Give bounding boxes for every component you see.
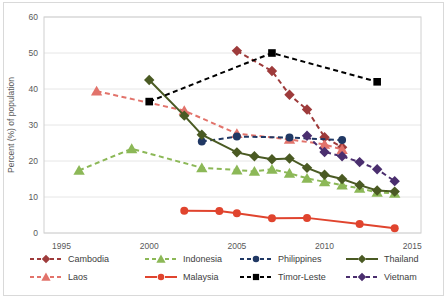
legend-item[interactable]: Indonesia <box>145 254 222 264</box>
data-point-marker <box>356 220 364 228</box>
y-axis-tick-label: 20 <box>29 156 39 166</box>
data-point-marker <box>303 214 311 222</box>
data-point-marker <box>232 46 242 56</box>
data-point-marker <box>319 169 329 179</box>
data-point-marker <box>233 133 241 141</box>
legend-label: Thailand <box>384 254 419 264</box>
chart-figure: 010203040506019952000200520102015Percent… <box>0 0 448 300</box>
data-point-marker <box>373 78 381 86</box>
data-point-marker <box>268 49 276 57</box>
legend-label: Timor-Leste <box>278 272 326 282</box>
data-point-marker <box>285 134 293 142</box>
data-point-marker <box>249 151 259 161</box>
y-axis-tick-label: 40 <box>29 84 39 94</box>
data-point-marker <box>284 153 294 163</box>
legend-marker-icon <box>41 273 50 281</box>
legend-label: Philippines <box>278 254 322 264</box>
x-axis-tick-label: 2005 <box>227 241 246 251</box>
legend-marker-icon <box>253 274 259 280</box>
data-point-marker <box>145 98 153 106</box>
legend-item[interactable]: Timor-Leste <box>240 272 326 282</box>
x-axis-tick-label: 2010 <box>315 241 334 251</box>
line-chart-plot: 010203040506019952000200520102015Percent… <box>0 0 448 300</box>
legend-marker-icon <box>358 255 367 264</box>
legend-item[interactable]: Thailand <box>346 254 419 264</box>
legend-item[interactable]: Philippines <box>240 254 322 264</box>
data-point-marker <box>196 162 207 172</box>
series-timor-leste <box>145 49 381 105</box>
legend-label: Cambodia <box>68 254 109 264</box>
data-point-marker <box>126 143 137 153</box>
legend-marker-icon <box>156 255 165 263</box>
data-point-marker <box>302 163 312 173</box>
y-axis-tick-label: 10 <box>29 192 39 202</box>
data-point-marker <box>249 166 260 176</box>
legend-label: Indonesia <box>183 254 222 264</box>
data-point-marker <box>372 164 382 174</box>
x-axis-tick-label: 1995 <box>52 241 71 251</box>
data-point-marker <box>337 174 347 184</box>
legend-item[interactable]: Malaysia <box>145 272 219 282</box>
data-point-marker <box>284 90 294 100</box>
data-point-marker <box>267 154 277 164</box>
y-axis-tick-label: 30 <box>29 120 39 130</box>
legend-label: Vietnam <box>384 272 417 282</box>
legend-item[interactable]: Vietnam <box>346 272 417 282</box>
data-point-marker <box>180 207 188 215</box>
data-point-marker <box>91 86 102 96</box>
data-point-marker <box>73 165 84 175</box>
y-axis-tick-label: 0 <box>33 228 38 238</box>
x-axis-tick-label: 2015 <box>403 241 422 251</box>
data-point-marker <box>215 207 223 215</box>
y-axis-title: Percent (%) of population <box>6 77 16 173</box>
series-line <box>149 53 377 102</box>
series-line <box>97 91 342 149</box>
legend-marker-icon <box>253 256 260 263</box>
legend-label: Malaysia <box>183 272 219 282</box>
x-axis-tick-label: 2000 <box>140 241 159 251</box>
data-point-marker <box>354 157 364 167</box>
legend-marker-icon <box>358 273 367 282</box>
legend-marker-icon <box>42 255 51 264</box>
series-line <box>149 80 394 192</box>
legend-item[interactable]: Laos <box>30 272 88 282</box>
data-point-marker <box>231 165 242 175</box>
data-point-marker <box>233 209 241 217</box>
y-axis-tick-label: 60 <box>29 12 39 22</box>
data-point-marker <box>302 131 312 141</box>
chart-legend: CambodiaIndonesiaLaosMalaysiaPhilippines… <box>30 254 419 282</box>
y-axis-tick-label: 50 <box>29 48 39 58</box>
series-malaysia <box>180 207 398 233</box>
legend-label: Laos <box>68 272 88 282</box>
data-point-marker <box>391 224 399 232</box>
legend-marker-icon <box>158 274 165 281</box>
data-point-marker <box>268 214 276 222</box>
data-point-marker <box>338 136 346 144</box>
series-thailand <box>144 75 400 197</box>
data-point-marker <box>232 147 242 157</box>
legend-item[interactable]: Cambodia <box>30 254 109 264</box>
